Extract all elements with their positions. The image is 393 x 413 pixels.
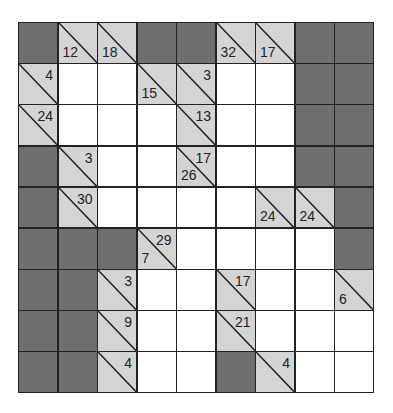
clue-cell: 17 [256, 23, 294, 63]
across-clue: 4 [282, 356, 290, 370]
entry-cell[interactable] [256, 270, 294, 310]
clue-cell: 24 [256, 188, 294, 228]
block-cell [19, 352, 57, 392]
across-clue: 4 [124, 356, 132, 370]
clue-cell: 3 [59, 147, 97, 187]
entry-cell[interactable] [335, 311, 373, 351]
down-clue: 24 [300, 209, 316, 223]
clue-cell: 24 [296, 188, 334, 228]
clue-cell: 3 [98, 270, 136, 310]
block-cell [335, 188, 373, 228]
clue-cell: 6 [335, 270, 373, 310]
block-cell [19, 311, 57, 351]
clue-cell: 12 [59, 23, 97, 63]
across-clue: 24 [37, 109, 53, 123]
entry-cell[interactable] [217, 105, 255, 145]
block-cell [335, 105, 373, 145]
clue-cell: 17 [217, 270, 255, 310]
entry-cell[interactable] [138, 352, 176, 392]
block-cell [59, 270, 97, 310]
block-cell [335, 23, 373, 63]
across-clue: 17 [195, 151, 211, 165]
entry-cell[interactable] [177, 311, 215, 351]
clue-cell: 32 [217, 23, 255, 63]
down-clue: 17 [260, 45, 276, 59]
across-clue: 21 [235, 315, 251, 329]
entry-cell[interactable] [98, 147, 136, 187]
entry-cell[interactable] [217, 188, 255, 228]
block-cell [59, 229, 97, 269]
across-clue: 3 [124, 274, 132, 288]
entry-cell[interactable] [138, 311, 176, 351]
clue-cell: 9 [98, 311, 136, 351]
down-clue: 32 [221, 45, 237, 59]
block-cell [19, 270, 57, 310]
down-clue: 7 [142, 251, 150, 265]
entry-cell[interactable] [217, 64, 255, 104]
entry-cell[interactable] [217, 229, 255, 269]
entry-cell[interactable] [177, 270, 215, 310]
block-cell [59, 311, 97, 351]
entry-cell[interactable] [256, 147, 294, 187]
clue-cell: 15 [138, 64, 176, 104]
down-clue: 15 [142, 86, 158, 100]
block-cell [19, 147, 57, 187]
block-cell [19, 23, 57, 63]
entry-cell[interactable] [177, 229, 215, 269]
block-cell [296, 64, 334, 104]
entry-cell[interactable] [217, 147, 255, 187]
clue-cell: 18 [98, 23, 136, 63]
block-cell [335, 147, 373, 187]
block-cell [296, 147, 334, 187]
clue-cell: 4 [98, 352, 136, 392]
across-clue: 3 [85, 151, 93, 165]
block-cell [98, 229, 136, 269]
down-clue: 24 [260, 209, 276, 223]
clue-cell: 297 [138, 229, 176, 269]
entry-cell[interactable] [256, 311, 294, 351]
entry-cell[interactable] [177, 188, 215, 228]
down-clue: 18 [102, 45, 118, 59]
entry-cell[interactable] [98, 188, 136, 228]
entry-cell[interactable] [296, 229, 334, 269]
block-cell [177, 23, 215, 63]
entry-cell[interactable] [296, 352, 334, 392]
entry-cell[interactable] [138, 270, 176, 310]
entry-cell[interactable] [59, 105, 97, 145]
across-clue: 3 [203, 68, 211, 82]
block-cell [296, 23, 334, 63]
entry-cell[interactable] [256, 229, 294, 269]
clue-cell: 3 [177, 64, 215, 104]
block-cell [335, 229, 373, 269]
down-clue: 12 [63, 45, 79, 59]
across-clue: 29 [156, 233, 172, 247]
across-clue: 30 [77, 192, 93, 206]
clue-cell: 4 [256, 352, 294, 392]
entry-cell[interactable] [98, 64, 136, 104]
clue-cell: 30 [59, 188, 97, 228]
clue-cell: 1726 [177, 147, 215, 187]
kakuro-grid: 121832174153241331726302424297317692144 [18, 22, 374, 393]
block-cell [19, 229, 57, 269]
block-cell [59, 352, 97, 392]
entry-cell[interactable] [256, 64, 294, 104]
entry-cell[interactable] [59, 64, 97, 104]
across-clue: 4 [45, 68, 53, 82]
entry-cell[interactable] [256, 105, 294, 145]
entry-cell[interactable] [138, 105, 176, 145]
entry-cell[interactable] [98, 105, 136, 145]
entry-cell[interactable] [296, 311, 334, 351]
block-cell [217, 352, 255, 392]
block-cell [19, 188, 57, 228]
entry-cell[interactable] [335, 352, 373, 392]
entry-cell[interactable] [296, 270, 334, 310]
block-cell [335, 64, 373, 104]
down-clue: 6 [339, 292, 347, 306]
clue-cell: 4 [19, 64, 57, 104]
entry-cell[interactable] [177, 352, 215, 392]
across-clue: 17 [235, 274, 251, 288]
entry-cell[interactable] [138, 188, 176, 228]
entry-cell[interactable] [138, 147, 176, 187]
clue-cell: 24 [19, 105, 57, 145]
clue-cell: 21 [217, 311, 255, 351]
